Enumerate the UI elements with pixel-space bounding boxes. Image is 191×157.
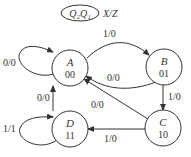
state-a: A 00 xyxy=(52,50,88,86)
state-b: B 01 xyxy=(146,49,182,85)
edge-a-a xyxy=(19,46,56,75)
state-d-name: D xyxy=(65,117,74,129)
label-c-d: 1/0 xyxy=(104,133,117,144)
label-a-a: 0/0 xyxy=(3,57,16,68)
label-d-a: 0/0 xyxy=(37,92,50,103)
state-b-code: 01 xyxy=(159,68,169,79)
state-diagram: Q₂Q₁ X/Z 0/0 1/0 0/0 1/0 0/0 1/0 0/0 1/1… xyxy=(0,0,191,157)
state-a-code: 00 xyxy=(65,69,75,80)
label-d-d: 1/1 xyxy=(3,123,16,134)
legend-state-vars: Q₂Q₁ xyxy=(69,8,90,19)
legend: Q₂Q₁ X/Z xyxy=(61,5,118,21)
state-d: D 11 xyxy=(52,111,88,147)
label-c-a: 0/0 xyxy=(91,99,104,110)
edge-d-d xyxy=(20,117,57,145)
state-c: C 10 xyxy=(145,110,181,146)
state-b-name: B xyxy=(161,55,168,67)
edge-a-b xyxy=(87,43,149,58)
label-b-c: 1/0 xyxy=(168,91,181,102)
state-c-name: C xyxy=(159,116,167,128)
legend-io-format: X/Z xyxy=(102,8,118,19)
state-c-code: 10 xyxy=(158,129,168,140)
state-a-name: A xyxy=(66,56,74,68)
label-a-b: 1/0 xyxy=(103,28,116,39)
label-b-a: 0/0 xyxy=(107,72,120,83)
state-d-code: 11 xyxy=(65,130,75,141)
